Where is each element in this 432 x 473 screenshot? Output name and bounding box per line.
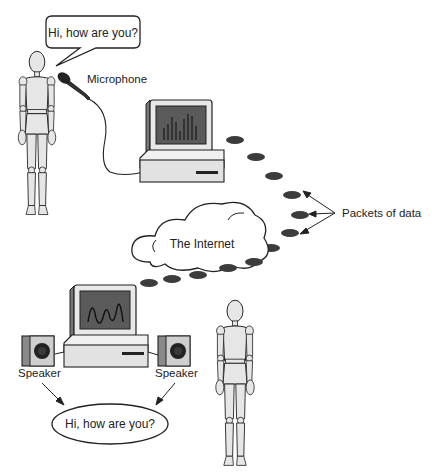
speaker-right-label: Speaker — [155, 367, 198, 379]
voip-diagram: Hi, how are you? Microphone — [0, 0, 432, 473]
speech-bottom-text: Hi, how are you? — [65, 417, 155, 431]
computer-receiver — [64, 285, 148, 367]
sound-arrows — [42, 383, 175, 405]
person-listening — [216, 300, 254, 465]
microphone-label: Microphone — [87, 73, 147, 85]
speaker-left-label: Speaker — [18, 367, 61, 379]
internet-label: The Internet — [170, 237, 235, 251]
speaker-left-icon — [22, 336, 64, 366]
speech-top-text: Hi, how are you? — [48, 26, 138, 40]
microphone-icon — [55, 70, 150, 175]
computer-sender — [140, 100, 224, 182]
packets-label: Packets of data — [342, 207, 422, 219]
person-speaking — [18, 51, 55, 214]
speech-bubble-top: Hi, how are you? — [46, 16, 140, 66]
speech-bubble-bottom: Hi, how are you? — [52, 404, 168, 444]
speaker-right-icon — [148, 336, 190, 366]
